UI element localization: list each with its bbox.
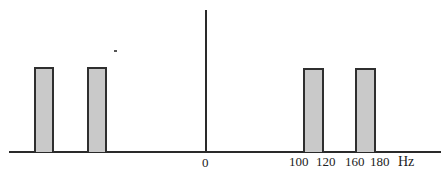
x-axis (9, 151, 441, 153)
y-axis (205, 10, 207, 152)
stray-mark (114, 50, 117, 52)
tick-label-120: 120 (316, 154, 336, 170)
x-axis-unit-label: Hz (398, 154, 414, 170)
band-160-180 (355, 68, 376, 152)
tick-label-180: 180 (370, 154, 390, 170)
tick-label-100: 100 (289, 154, 309, 170)
band-100-120 (303, 68, 324, 152)
band-neg-180-160 (34, 67, 54, 152)
tick-label-160: 160 (345, 154, 365, 170)
spectrum-chart: 0 100 120 160 180 Hz (0, 0, 447, 174)
tick-label-0: 0 (202, 155, 209, 171)
band-neg-120-100 (87, 67, 107, 152)
